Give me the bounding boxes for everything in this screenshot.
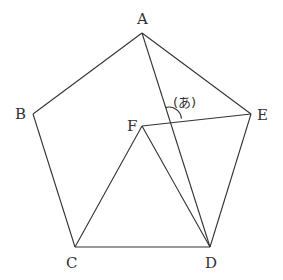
- segment-EA: [142, 33, 251, 114]
- label-A: A: [136, 10, 148, 28]
- pentagon-diagram: A B C D E F (あ): [0, 0, 283, 280]
- label-F: F: [127, 117, 137, 135]
- label-E: E: [257, 106, 268, 124]
- segment-FD: [142, 126, 210, 247]
- segment-AD: [142, 33, 210, 247]
- segment-DE: [210, 114, 251, 247]
- segment-AB: [33, 33, 142, 114]
- label-D: D: [205, 254, 217, 272]
- label-C: C: [66, 254, 77, 272]
- segment-BC: [33, 114, 75, 247]
- segment-FE: [142, 114, 251, 126]
- angle-label: (あ): [173, 95, 196, 110]
- segment-FC: [75, 126, 142, 247]
- label-B: B: [15, 105, 26, 123]
